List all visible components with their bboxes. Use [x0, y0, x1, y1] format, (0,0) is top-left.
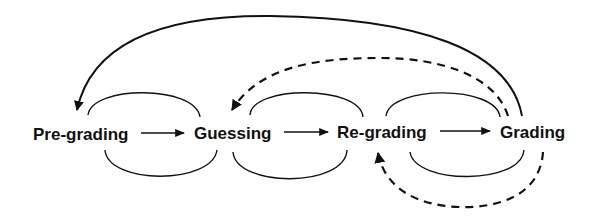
- edge-grading-to-guessing-dashed: [232, 58, 508, 116]
- loop-bottom-guessing-regrading: [233, 150, 347, 179]
- loop-top-pregrading-guessing: [88, 93, 200, 117]
- loop-top-regrading-grading: [386, 93, 500, 117]
- node-guessing: Guessing: [194, 124, 271, 143]
- loop-bottom-regrading-grading: [410, 150, 524, 177]
- node-pre-grading: Pre-grading: [33, 125, 128, 144]
- node-grading: Grading: [500, 123, 565, 142]
- loop-bottom-pregrading-guessing: [105, 150, 217, 176]
- node-re-grading: Re-grading: [337, 123, 427, 142]
- process-diagram: Pre-grading Guessing Re-grading Grading: [0, 0, 592, 221]
- edge-grading-to-regrading-dashed: [378, 152, 543, 207]
- loop-top-guessing-regrading: [250, 93, 363, 117]
